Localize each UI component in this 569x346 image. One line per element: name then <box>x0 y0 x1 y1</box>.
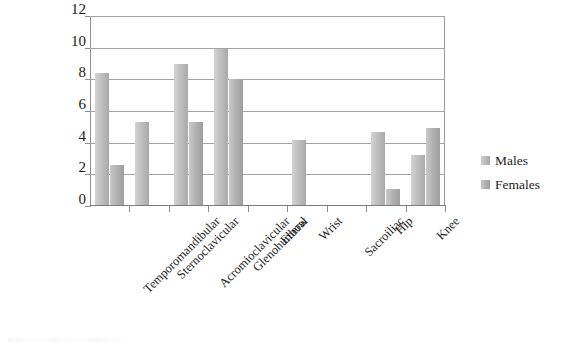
y-tick-label: 4 <box>52 128 86 144</box>
bar-group <box>366 16 405 206</box>
bar-males-hip[interactable] <box>371 132 385 206</box>
bar-males-sternoclavicular[interactable] <box>135 122 149 206</box>
y-tick-label: 10 <box>52 33 86 49</box>
legend-swatch-icon <box>481 180 490 189</box>
legend-item-females[interactable]: Females <box>481 172 565 196</box>
legend-label: Males <box>495 153 528 168</box>
bar-group <box>129 16 168 206</box>
x-axis-baseline <box>90 205 446 206</box>
category-axis-labels: TemporomandibularSternoclavicularAcromio… <box>0 212 569 332</box>
bar-males-temporomandibular[interactable] <box>95 73 109 206</box>
bar-males-wrist[interactable] <box>292 140 306 207</box>
y-axis-tick <box>85 206 91 207</box>
bars-layer <box>90 16 445 206</box>
bar-females-glenohumeral[interactable] <box>229 79 243 206</box>
bar-females-acromioclavicular[interactable] <box>189 122 203 206</box>
legend-swatch-icon <box>481 156 490 165</box>
bar-males-knee[interactable] <box>411 155 425 206</box>
y-tick-label: 12 <box>52 1 86 17</box>
bar-males-glenohumeral[interactable] <box>214 49 228 206</box>
y-axis-tick-labels: 12 10 8 6 4 2 0 <box>52 9 86 213</box>
bar-males-acromioclavicular[interactable] <box>174 64 188 207</box>
category-label-wrist: Wrist <box>316 214 345 243</box>
y-tick-label: 2 <box>52 159 86 175</box>
scan-artifact <box>8 338 158 342</box>
bar-females-temporomandibular[interactable] <box>110 165 124 206</box>
bar-group <box>208 16 247 206</box>
y-tick-label: 8 <box>52 64 86 80</box>
plot-area <box>90 16 445 206</box>
bar-chart: 12 10 8 6 4 2 0 TemporomandibularSternoc… <box>0 0 569 346</box>
bar-females-hip[interactable] <box>386 189 400 206</box>
chart-legend: Males Females <box>481 148 565 196</box>
bar-group <box>169 16 208 206</box>
bar-group <box>248 16 287 206</box>
y-tick-label: 6 <box>52 96 86 112</box>
bar-group <box>90 16 129 206</box>
bar-group <box>327 16 366 206</box>
bar-group <box>287 16 326 206</box>
bar-females-knee[interactable] <box>426 128 440 206</box>
legend-item-males[interactable]: Males <box>481 148 565 172</box>
bar-group <box>406 16 445 206</box>
category-label-knee: Knee <box>434 214 463 243</box>
y-tick-label: 0 <box>52 191 86 207</box>
legend-label: Females <box>495 177 540 192</box>
